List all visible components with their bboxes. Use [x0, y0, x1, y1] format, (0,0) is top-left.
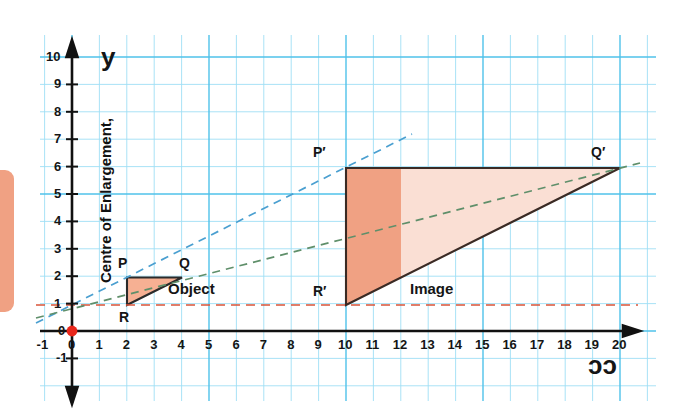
x-axis-title: ɔɔ [588, 352, 617, 378]
x-tick-5: 5 [205, 338, 212, 351]
x-tick-11: 11 [365, 338, 379, 351]
vertex-label-R-prime: R′ [313, 284, 326, 298]
y-tick-1: 1 [54, 297, 61, 310]
centre-of-enlargement-dot [67, 326, 78, 337]
x-tick-8: 8 [287, 338, 294, 351]
x-tick-1: 1 [95, 338, 102, 351]
x-tick-3: 3 [150, 338, 157, 351]
x-tick-15: 15 [475, 338, 489, 351]
y-tick--1: -1 [56, 351, 68, 364]
y-axis-arrow-down [67, 387, 78, 404]
x-tick-2: 2 [123, 338, 130, 351]
vertex-label-P-prime: P′ [313, 145, 326, 159]
x-tick-10: 10 [338, 338, 352, 351]
x-tick-17: 17 [530, 338, 544, 351]
y-tick-2: 2 [54, 269, 61, 282]
x-tick-16: 16 [502, 338, 516, 351]
y-axis-arrow-up [67, 40, 78, 57]
x-tick-14: 14 [448, 338, 462, 351]
x-tick-9: 9 [315, 338, 322, 351]
vertex-label-R: R [119, 310, 129, 324]
y-axis-title: y [101, 44, 115, 70]
y-tick-8: 8 [54, 105, 61, 118]
x-tick-0: 0 [68, 338, 75, 351]
y-tick-0: 0 [58, 324, 65, 337]
x-tick-18: 18 [557, 338, 571, 351]
vertex-label-P: P [118, 256, 127, 270]
y-tick-7: 7 [54, 132, 61, 145]
x-tick-19: 19 [585, 338, 599, 351]
object-caption: Object [168, 281, 215, 296]
x-tick-20: 20 [612, 338, 626, 351]
x-tick-4: 4 [178, 338, 185, 351]
figure-canvas: y ɔɔ Centre of Enlargement, P Q R P′ Q′ … [0, 0, 687, 414]
centre-of-enlargement-caption: Centre of Enlargement, [97, 118, 114, 283]
x-tick-7: 7 [260, 338, 267, 351]
image-caption: Image [410, 281, 453, 296]
vertex-label-Q-prime: Q′ [591, 145, 605, 159]
x-axis-arrow-right [623, 326, 640, 337]
y-tick-3: 3 [54, 242, 61, 255]
x-tick--1: -1 [37, 338, 49, 351]
y-tick-5: 5 [54, 187, 61, 200]
y-tick-4: 4 [54, 214, 61, 227]
x-tick-13: 13 [420, 338, 434, 351]
y-tick-9: 9 [54, 77, 61, 90]
y-tick-6: 6 [54, 160, 61, 173]
x-tick-6: 6 [232, 338, 239, 351]
x-tick-12: 12 [393, 338, 407, 351]
y-tick-10: 10 [46, 50, 60, 63]
vertex-label-Q: Q [179, 256, 190, 270]
